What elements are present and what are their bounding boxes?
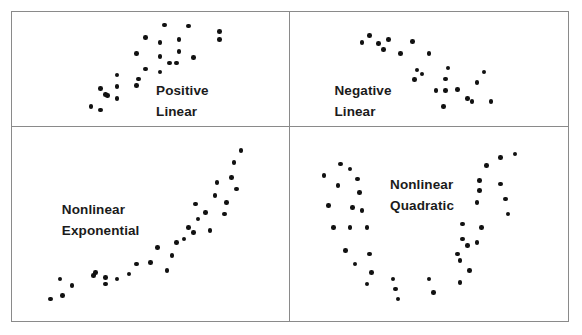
data-point (215, 180, 220, 185)
scatter-plot-positive-linear (12, 12, 289, 126)
data-point (331, 225, 336, 230)
data-point (115, 96, 120, 101)
data-point (434, 88, 439, 93)
data-point (213, 193, 218, 198)
data-point (162, 23, 167, 28)
data-point (393, 287, 398, 292)
data-point (326, 203, 331, 208)
data-point (475, 240, 480, 245)
data-point (58, 277, 63, 282)
data-point (376, 41, 381, 46)
data-point (229, 175, 234, 180)
data-point (470, 99, 475, 104)
data-point (239, 148, 244, 153)
data-point (455, 87, 460, 92)
data-point (170, 253, 175, 258)
data-point (158, 70, 163, 75)
data-point (103, 92, 108, 97)
data-point (427, 277, 432, 282)
data-point (48, 297, 53, 302)
data-point (475, 80, 480, 85)
data-point (177, 37, 182, 42)
data-point (427, 51, 432, 56)
data-point (498, 182, 503, 187)
data-point (455, 252, 460, 257)
data-point (369, 270, 374, 275)
data-point (158, 40, 163, 45)
data-point (322, 173, 327, 178)
data-point (60, 293, 65, 298)
data-point (134, 83, 139, 88)
data-point (143, 35, 148, 40)
scatterplot-figure: Positive Linear Negative Linear Nonlinea… (11, 11, 569, 322)
data-point (203, 210, 208, 215)
data-point (186, 225, 191, 230)
data-point (360, 40, 365, 45)
data-point (398, 51, 403, 56)
data-point (136, 77, 141, 82)
panel-nonlinear-exponential: Nonlinear Exponential (12, 127, 290, 321)
data-point (174, 240, 179, 245)
data-point (367, 33, 372, 38)
panel-negative-linear: Negative Linear (290, 12, 568, 127)
data-point (186, 24, 191, 29)
data-point (489, 99, 494, 104)
data-point (365, 282, 370, 287)
data-point (196, 217, 201, 222)
data-point (70, 283, 75, 288)
data-point (193, 202, 198, 207)
data-point (103, 282, 108, 287)
data-point (165, 268, 170, 273)
data-point (336, 183, 341, 188)
data-point (98, 86, 103, 91)
data-point (482, 70, 487, 75)
data-point (479, 225, 484, 230)
data-point (443, 77, 448, 82)
data-point (391, 277, 396, 282)
panel-positive-linear: Positive Linear (12, 12, 290, 127)
data-point (498, 155, 503, 160)
panel-grid: Positive Linear Negative Linear Nonlinea… (12, 12, 568, 321)
scatter-plot-nonlinear-exponential (12, 127, 289, 321)
data-point (353, 262, 358, 267)
data-point (367, 252, 372, 257)
data-point (338, 162, 343, 167)
data-point (415, 68, 420, 73)
data-point (155, 245, 160, 250)
data-point (234, 187, 239, 192)
data-point (115, 277, 120, 282)
data-point (443, 88, 448, 93)
data-point (503, 197, 508, 202)
data-point (410, 39, 415, 44)
data-point (355, 177, 360, 182)
data-point (446, 66, 451, 71)
data-point (98, 108, 103, 113)
data-point (182, 237, 187, 242)
data-point (343, 248, 348, 253)
data-point (217, 37, 222, 42)
data-point (103, 275, 108, 280)
data-point (431, 290, 436, 295)
data-point (167, 61, 172, 66)
data-point (460, 237, 465, 242)
data-point (506, 212, 511, 217)
data-point (89, 104, 94, 109)
data-point (115, 73, 120, 78)
data-point (365, 225, 370, 230)
data-point (465, 243, 470, 248)
panel-nonlinear-quadratic: Nonlinear Quadratic (290, 127, 568, 321)
data-point (191, 230, 196, 235)
data-point (134, 51, 139, 56)
data-point (441, 104, 446, 109)
data-point (460, 222, 465, 227)
data-point (158, 54, 163, 59)
data-point (222, 212, 227, 217)
scatter-plot-negative-linear (290, 12, 568, 126)
data-point (458, 258, 463, 263)
data-point (115, 84, 120, 89)
data-point (465, 96, 470, 101)
data-point (477, 178, 482, 183)
data-point (348, 225, 353, 230)
data-point (224, 200, 229, 205)
data-point (477, 188, 482, 193)
